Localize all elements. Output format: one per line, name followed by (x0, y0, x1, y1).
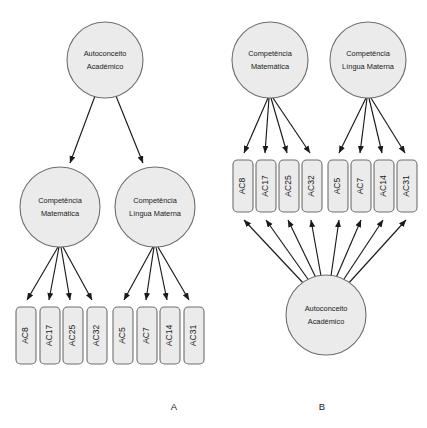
latent-label-line2: Língua Materna (129, 209, 182, 218)
indicator-label: AC31 (188, 325, 198, 347)
path-a-lang-to-a-ac5 (124, 247, 153, 300)
indicator-label: AC7 (355, 177, 365, 194)
latent-circle (232, 22, 308, 98)
latent-circle (115, 167, 195, 247)
latent-label-line2: Matemática (41, 209, 80, 218)
path-b-general-to-b-ac8 (244, 220, 305, 285)
panels-layer: AutoconceitoAcadémicoCompetênciaMatemáti… (16, 22, 417, 412)
indicator-a-ac25: AC25 (63, 307, 83, 364)
panel-caption-b: B (319, 401, 325, 412)
path-b-lang-to-b-ac5 (339, 98, 366, 153)
panel-caption-a: A (171, 401, 178, 412)
panel-a: AutoconceitoAcadémicoCompetênciaMatemáti… (16, 22, 204, 412)
path-a-lang-to-a-ac31 (158, 247, 189, 300)
path-a-math-to-a-ac32 (63, 247, 92, 300)
indicator-b-ac25: AC25 (279, 160, 299, 212)
path-b-general-to-b-ac32 (311, 220, 321, 276)
indicator-label: AC14 (378, 175, 388, 197)
sem-path-diagram-figure: AutoconceitoAcadémicoCompetênciaMatemáti… (0, 0, 427, 428)
latent-circle (330, 22, 406, 98)
indicator-a-ac31: AC31 (184, 307, 204, 364)
path-b-lang-to-b-ac31 (371, 98, 405, 153)
latent-node-b-lang: CompetênciaLíngua Materna (330, 22, 406, 98)
indicator-label: AC25 (67, 325, 77, 347)
path-a-general-to-a-lang (116, 96, 143, 163)
path-a-general-to-a-math (70, 96, 95, 163)
path-b-lang-to-b-ac7 (360, 98, 367, 153)
indicator-label: AC7 (141, 327, 151, 344)
path-b-math-to-b-ac8 (244, 98, 268, 153)
latent-node-a-math: CompetênciaMatemática (20, 167, 100, 247)
indicator-b-ac5: AC5 (328, 160, 348, 212)
path-a-lang-to-a-ac7 (146, 247, 154, 300)
indicator-a-ac14: AC14 (160, 307, 180, 364)
latent-label-line2: Académico (308, 317, 345, 326)
indicator-label: AC14 (164, 325, 174, 347)
latent-label-line1: Autoconceito (84, 49, 127, 58)
latent-label-line1: Competência (346, 49, 390, 58)
indicator-label: AC8 (237, 177, 247, 194)
path-b-general-to-b-ac7 (336, 220, 361, 278)
latent-label-line2: Matemática (251, 62, 290, 71)
indicator-label: AC5 (332, 177, 342, 194)
indicator-a-ac17: AC17 (40, 307, 60, 364)
indicator-a-ac7: AC7 (137, 307, 157, 364)
latent-circle (286, 275, 366, 355)
latent-node-b-general: AutoconceitoAcadémico (286, 275, 366, 355)
indicator-a-ac32: AC32 (87, 307, 107, 364)
indicator-label: AC8 (20, 327, 30, 344)
latent-node-b-math: CompetênciaMatemática (232, 22, 308, 98)
latent-label-line1: Competência (248, 49, 292, 58)
indicator-label: AC25 (283, 175, 293, 197)
latent-node-a-lang: CompetênciaLíngua Materna (115, 167, 195, 247)
path-b-general-to-b-ac25 (288, 220, 316, 278)
latent-label-line1: Competência (133, 196, 177, 205)
latent-node-a-general: AutoconceitoAcadémico (67, 22, 143, 98)
indicator-b-ac32: AC32 (302, 160, 322, 212)
indicator-label: AC32 (91, 325, 101, 347)
indicator-label: AC17 (44, 325, 54, 347)
latent-label-line2: Académico (87, 62, 124, 71)
latent-circle (20, 167, 100, 247)
path-a-math-to-a-ac25 (61, 247, 70, 300)
panel-b: CompetênciaMatemáticaCompetênciaLíngua M… (232, 22, 417, 412)
latent-label-line2: Língua Materna (342, 62, 395, 71)
indicator-a-ac8: AC8 (16, 307, 36, 364)
path-b-math-to-b-ac17 (265, 98, 269, 153)
path-b-general-to-b-ac5 (331, 220, 339, 276)
indicator-b-ac7: AC7 (351, 160, 371, 212)
indicator-label: AC31 (401, 175, 411, 197)
indicator-b-ac31: AC31 (397, 160, 417, 212)
indicator-b-ac17: AC17 (256, 160, 276, 212)
path-a-lang-to-a-ac14 (156, 247, 167, 300)
path-a-math-to-a-ac8 (27, 247, 58, 300)
indicator-b-ac14: AC14 (374, 160, 394, 212)
indicator-b-ac8: AC8 (233, 160, 253, 212)
diagram-canvas: AutoconceitoAcadémicoCompetênciaMatemáti… (0, 0, 427, 428)
indicator-label: AC5 (117, 327, 127, 344)
indicator-label: AC17 (260, 175, 270, 197)
latent-label-line1: Autoconceito (305, 304, 348, 313)
indicator-label: AC32 (306, 175, 316, 197)
latent-label-line1: Competência (38, 196, 82, 205)
latent-circle (67, 22, 143, 98)
indicator-a-ac5: AC5 (113, 307, 133, 364)
